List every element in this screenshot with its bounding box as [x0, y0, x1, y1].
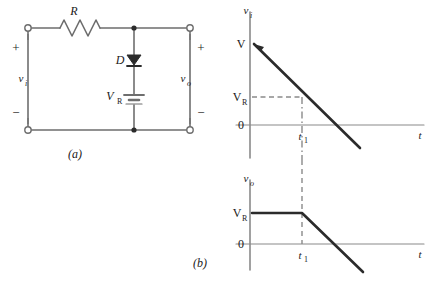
battery-label-sub: R [117, 97, 123, 106]
output-y-axis-label: v o [244, 172, 254, 188]
input-minus-sign: − [12, 105, 19, 120]
output-ytick-VR-base: V [233, 206, 242, 220]
circuit-diagram-panel: R D V R v i v o + − + − (a) [0, 0, 216, 175]
output-xtick-t1-base: t [298, 249, 302, 261]
diode-label: D [115, 53, 125, 67]
output-xtick-t1-sub: 1 [304, 255, 308, 264]
output-minus-sign: − [197, 105, 204, 120]
resistor-label: R [69, 4, 78, 18]
figure-page: R D V R v i v o + − + − (a) [0, 0, 432, 285]
output-terminal-bottom [187, 127, 193, 133]
panel-b-caption: (b) [193, 256, 207, 270]
output-voltage-base: v [181, 72, 186, 84]
panel-b-caption-layer: (b) [170, 243, 290, 283]
battery-label: V R [106, 89, 123, 106]
node-top [131, 25, 136, 30]
output-xtick-t1: t 1 [298, 249, 308, 264]
input-plus-sign: + [12, 40, 19, 55]
input-voltage-sub: i [25, 79, 27, 88]
output-y-axis-label-base: v [244, 172, 249, 184]
panel-a-caption: (a) [68, 147, 82, 161]
battery-symbol [124, 95, 144, 104]
input-ytick-VR: V R [233, 90, 248, 107]
output-x-axis-label: t [418, 248, 422, 260]
input-voltage-base: v [19, 72, 24, 84]
circuit-wires [28, 28, 190, 130]
input-voltage-label: v i [19, 72, 28, 88]
input-y-axis-label-base: v [244, 4, 249, 16]
input-x-axis-label: t [418, 129, 422, 141]
input-terminal-bottom [25, 127, 31, 133]
diode-symbol [127, 55, 141, 66]
input-terminal-top [25, 25, 31, 31]
input-ytick-VR-base: V [233, 90, 242, 104]
battery-label-base: V [106, 89, 115, 103]
output-ytick-VR-sub: R [242, 214, 248, 223]
output-y-axis-label-sub: o [250, 179, 254, 188]
input-ytick-VR-sub: R [242, 98, 248, 107]
output-ytick-VR: V R [233, 206, 248, 223]
input-ytick-zero: 0 [238, 118, 244, 132]
node-bottom [131, 127, 136, 132]
polarity-ticks [28, 34, 190, 124]
input-y-axis-label: v i [244, 4, 253, 20]
input-xtick-t1: t 1 [298, 130, 308, 145]
circuit-terminals [25, 25, 193, 133]
input-y-axis-label-sub: i [250, 11, 252, 20]
resistor-symbol [60, 20, 100, 36]
input-ytick-V: V [237, 37, 246, 51]
input-waveform-trace [254, 44, 360, 148]
chart-input-waveform: v i t V V R 0 t 1 [233, 4, 424, 160]
output-plus-sign: + [197, 40, 204, 55]
output-terminal-top [187, 25, 193, 31]
input-xtick-t1-sub: 1 [304, 136, 308, 145]
output-voltage-sub: o [187, 79, 191, 88]
